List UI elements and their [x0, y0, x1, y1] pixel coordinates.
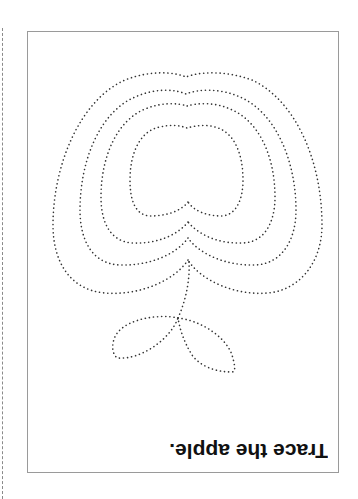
- apple-outline-4[interactable]: [130, 125, 243, 216]
- apple-outline-3[interactable]: [101, 104, 275, 243]
- stem[interactable]: [178, 262, 189, 318]
- leaf-left[interactable]: [113, 317, 178, 359]
- leaf-right[interactable]: [178, 318, 235, 372]
- apple-tracing-figure: [0, 0, 358, 499]
- apple-outline-2[interactable]: [80, 90, 296, 265]
- instruction-text: Trace the apple.: [138, 437, 328, 465]
